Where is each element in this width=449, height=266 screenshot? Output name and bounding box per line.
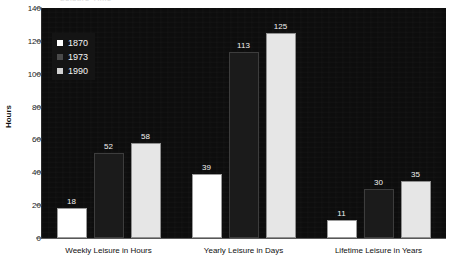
legend-item-label: 1870 <box>68 38 88 48</box>
bar <box>401 181 431 239</box>
legend-swatch-icon <box>57 54 63 60</box>
bar-value-label: 58 <box>141 132 150 141</box>
bar-value-label: 18 <box>67 197 76 206</box>
legend-item: 1870 <box>57 37 88 48</box>
legend: 1870 1973 1990 <box>52 33 95 80</box>
bar <box>192 174 222 238</box>
bar-value-label: 113 <box>237 41 250 50</box>
bar <box>327 220 357 238</box>
y-axis-tick-mark <box>36 238 42 239</box>
bar-value-label: 11 <box>337 209 345 218</box>
legend-item: 1973 <box>57 51 88 62</box>
x-axis-category-label: Weekly Leisure in Hours <box>65 246 152 255</box>
legend-item-label: 1990 <box>68 66 88 76</box>
legend-item-label: 1973 <box>68 52 88 62</box>
bar-value-label: 35 <box>411 170 420 179</box>
y-axis-tick-mark <box>36 8 42 9</box>
y-axis-tick-mark <box>36 106 42 107</box>
y-axis-tick-mark <box>36 172 42 173</box>
bar <box>266 33 296 238</box>
y-axis-title: Hours <box>4 93 13 141</box>
x-axis-category-label: Yearly Leisure in Days <box>204 246 283 255</box>
plot-area: 18525839113125113035 <box>41 8 446 238</box>
bar-value-label: 39 <box>202 163 211 172</box>
y-axis-tick-mark <box>36 139 42 140</box>
bar-value-label: 125 <box>274 22 287 31</box>
y-axis-tick-mark <box>36 205 42 206</box>
legend-item: 1990 <box>57 65 88 76</box>
bar <box>364 189 394 238</box>
bar-value-label: 52 <box>104 142 113 151</box>
bar <box>229 52 259 238</box>
legend-swatch-icon <box>57 68 63 74</box>
y-axis-tick-mark <box>36 73 42 74</box>
bar <box>94 153 124 238</box>
x-axis-line <box>41 238 446 239</box>
legend-swatch-icon <box>57 40 63 46</box>
bar-chart: Leisure Time 18525839113125113035 020406… <box>0 0 449 266</box>
bar <box>57 208 87 238</box>
bar-value-label: 30 <box>374 178 383 187</box>
y-axis-tick-mark <box>36 40 42 41</box>
bar <box>131 143 161 238</box>
x-axis-category-label: Lifetime Leisure in Years <box>335 246 422 255</box>
chart-title: Leisure Time <box>60 0 260 3</box>
